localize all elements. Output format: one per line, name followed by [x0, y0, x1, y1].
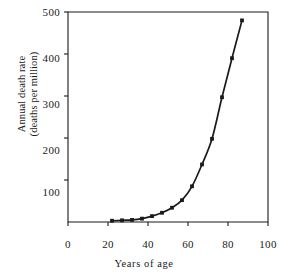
data-point [120, 218, 124, 222]
data-point [210, 137, 214, 141]
data-point [230, 56, 234, 60]
chart-figure: Annual death rate (deaths per million) Y… [0, 0, 288, 278]
x-axis-ticks [68, 222, 268, 226]
axis-frame [68, 12, 268, 222]
y-axis-ticks [64, 12, 68, 180]
data-point [150, 214, 154, 218]
data-point [200, 163, 204, 167]
data-point [110, 219, 114, 223]
data-point [140, 217, 144, 221]
data-point [190, 184, 194, 188]
data-point [240, 19, 244, 23]
data-point [180, 198, 184, 202]
data-point [130, 218, 134, 222]
data-markers [110, 19, 244, 223]
data-point [160, 211, 164, 215]
plot-area [0, 0, 288, 278]
data-line [112, 20, 242, 220]
data-point [170, 206, 174, 210]
data-point [220, 95, 224, 99]
